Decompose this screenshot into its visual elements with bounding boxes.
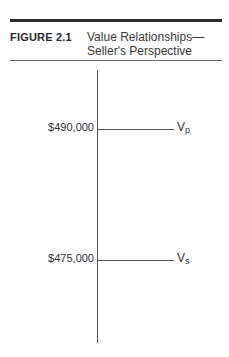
value-label: $490,000: [48, 121, 94, 133]
figure-title-line-2: Seller's Perspective: [87, 44, 222, 58]
value-axis: [97, 70, 98, 343]
header-rule: [10, 60, 222, 61]
level-line: [98, 260, 174, 261]
level-line: [98, 129, 174, 130]
symbol-label: Vs: [177, 251, 190, 266]
value-label: $475,000: [48, 252, 94, 264]
figure-title-line-1: Value Relationships—: [87, 30, 222, 44]
figure-title: Value Relationships— Seller's Perspectiv…: [87, 30, 222, 58]
top-rule: [10, 19, 222, 22]
figure-label: FIGURE 2.1: [10, 31, 72, 43]
symbol-label: Vp: [177, 120, 190, 135]
